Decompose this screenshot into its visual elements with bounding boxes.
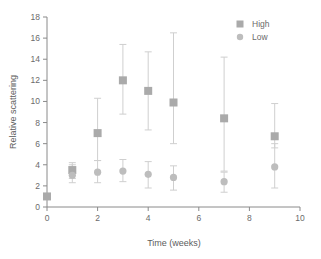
y-tick-label: 16 [31,33,41,43]
data-point-low [119,168,126,175]
y-tick-label: 10 [31,96,41,106]
scatter-chart-figure: 024681012141618 0246810 HighLow Time (we… [0,0,321,259]
y-tick-label: 2 [35,181,40,191]
data-point-low [69,172,76,179]
data-point-high [170,99,178,107]
data-point-high [94,129,102,137]
data-point-high [220,114,228,122]
x-tick-label: 0 [45,213,50,223]
x-axis-title: Time (weeks) [147,238,201,248]
x-tick-label: 4 [146,213,151,223]
data-point-low [170,174,177,181]
data-point-high [271,132,279,140]
data-point-low [94,169,101,176]
data-point-high [43,192,51,200]
y-tick-label: 0 [35,202,40,212]
y-axis-title: Relative scattering [8,75,18,149]
x-tick-label: 10 [295,213,305,223]
x-tick-label: 2 [95,213,100,223]
data-point-low [221,178,228,185]
data-point-low [271,163,278,170]
data-point-low [145,171,152,178]
y-tick-label: 14 [31,54,41,64]
legend-marker-high [237,21,244,28]
y-tick-label: 12 [31,75,41,85]
legend-label-low[interactable]: Low [252,32,268,42]
data-point-high [119,76,127,84]
plot-svg: 024681012141618 0246810 HighLow Time (we… [0,0,321,259]
y-tick-label: 8 [35,118,40,128]
y-tick-label: 6 [35,139,40,149]
legend-marker-low [237,34,243,40]
y-tick-label: 18 [31,12,41,22]
data-point-high [144,87,152,95]
y-tick-label: 4 [35,160,40,170]
x-tick-label: 6 [196,213,201,223]
legend-label-high[interactable]: High [252,19,270,29]
x-tick-label: 8 [247,213,252,223]
